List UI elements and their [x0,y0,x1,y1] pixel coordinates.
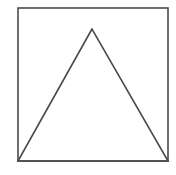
triangle-outline [18,29,168,161]
diagram-canvas [0,0,176,175]
